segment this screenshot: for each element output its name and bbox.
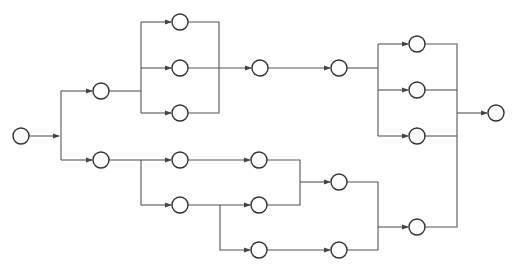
line-connector [267, 160, 300, 205]
network-diagram [0, 0, 515, 266]
node-circle-n16 [251, 242, 267, 258]
node-circle-n6 [252, 60, 268, 76]
node-circle-n12 [172, 152, 188, 168]
node-circle-n0 [13, 128, 29, 144]
node-circle-n13 [172, 197, 188, 213]
node-circle-n14 [251, 152, 267, 168]
node-circle-n7 [331, 60, 347, 76]
node-circle-n5 [172, 105, 188, 121]
node-circle-n17 [331, 174, 347, 190]
node-circle-n2 [93, 152, 109, 168]
node-circle-n1 [93, 83, 109, 99]
arrow-connector [220, 205, 250, 250]
diagram-canvas [0, 0, 515, 266]
node-circle-n10 [409, 128, 425, 144]
node-circle-n4 [172, 60, 188, 76]
node-circle-n8 [409, 36, 425, 52]
node-circle-n19 [409, 219, 425, 235]
node-circle-n15 [251, 197, 267, 213]
node-circle-n3 [172, 14, 188, 30]
node-circle-n9 [409, 82, 425, 98]
line-connector [347, 182, 378, 250]
node-circle-n11 [488, 105, 504, 121]
node-circle-n18 [331, 242, 347, 258]
